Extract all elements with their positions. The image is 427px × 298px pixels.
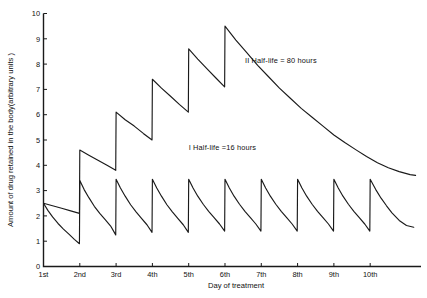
curve-2-label: II Half-life = 80 hours (245, 56, 317, 65)
x-tick-label: 9th (329, 270, 339, 279)
x-axis-title: Day of treatment (208, 281, 265, 290)
curve-1-label: I Half-life =16 hours (189, 143, 257, 152)
y-tick-label: 6 (36, 110, 40, 119)
x-tick-label: 8th (292, 270, 302, 279)
y-tick-label: 3 (36, 186, 40, 195)
y-tick-label: 2 (36, 212, 40, 221)
x-tick-label: 6th (220, 270, 230, 279)
x-tick-label: 3rd (111, 270, 122, 279)
drug-accumulation-chart: 012345678910 1st2nd3rd4th5th6th7th8th9th… (0, 0, 427, 298)
x-tick-label: 5th (184, 270, 194, 279)
y-tick-label: 9 (36, 35, 40, 44)
y-tick-label: 10 (32, 9, 40, 18)
x-tick-label: 7th (256, 270, 266, 279)
x-tick-label: 10th (363, 270, 377, 279)
y-tick-label: 5 (36, 136, 40, 145)
y-tick-label: 7 (36, 85, 40, 94)
y-tick-label: 4 (36, 161, 40, 170)
x-tick-label: 1st (39, 270, 49, 279)
y-axis-title: Amount of drug retained in the body(arbi… (6, 53, 15, 227)
x-tick-label: 4th (147, 270, 157, 279)
y-tick-label: 1 (36, 237, 40, 246)
y-tick-label: 8 (36, 60, 40, 69)
x-tick-label: 2nd (74, 270, 86, 279)
